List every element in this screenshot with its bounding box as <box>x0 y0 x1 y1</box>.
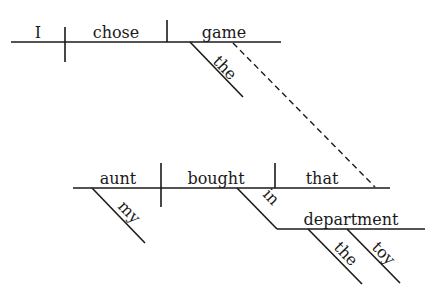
rel-verb: bought <box>187 169 245 188</box>
sentence-diagram: I chose game the aunt bought that my in … <box>0 0 439 292</box>
prep-object: department <box>304 210 400 229</box>
main-object: game <box>202 23 246 42</box>
rel-subject: aunt <box>100 169 137 188</box>
main-verb: chose <box>93 23 140 42</box>
modifier-the-game: the <box>209 52 241 84</box>
relative-connector-dashed <box>233 43 375 187</box>
modifier-the-department: the <box>330 238 362 270</box>
main-subject: I <box>35 23 41 42</box>
rel-object: that <box>306 169 339 188</box>
modifier-toy: toy <box>368 238 399 269</box>
modifier-my: my <box>114 197 144 228</box>
